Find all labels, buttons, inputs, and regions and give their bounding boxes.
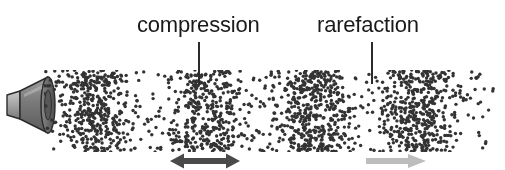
air-particle-field [44, 70, 500, 152]
compression-label: compression [137, 14, 260, 36]
particle-canvas [44, 70, 500, 152]
rarefaction-arrow [366, 153, 426, 169]
sound-wave-figure: compression rarefaction [0, 0, 505, 170]
rarefaction-label: rarefaction [317, 14, 419, 36]
compression-double-arrow [170, 152, 240, 170]
compression-leader-line [198, 42, 200, 84]
rarefaction-leader-line [371, 42, 373, 84]
